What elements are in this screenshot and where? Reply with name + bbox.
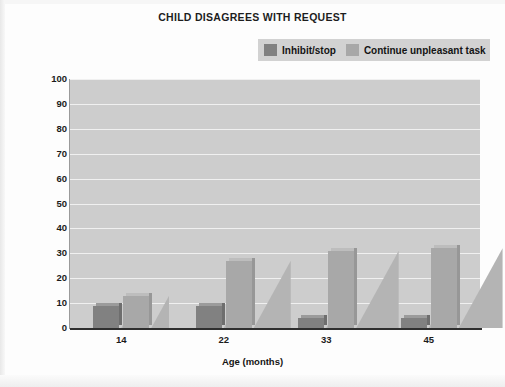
bar-body [123,296,149,328]
bar-face [93,306,119,328]
bar-side-face [324,315,327,325]
legend-swatch-inhibit-stop [264,44,277,56]
y-axis-line [69,79,70,329]
bar-face [196,306,222,328]
bar-shadow [151,296,169,328]
plot-area [70,79,480,328]
y-axis-tick-label: 0 [37,322,67,333]
legend-swatch-continue-unpleasant-task [346,44,359,56]
bar-face [226,261,252,328]
bar-body [298,318,324,328]
bar-side-face [457,245,460,325]
y-axis-tick-label: 50 [37,198,67,209]
bar-side-face [354,248,357,325]
bar-shadow [459,248,503,328]
bar-face [328,251,354,328]
bar-body [431,248,457,328]
chart-page: CHILD DISAGREES WITH REQUEST Inhibit/sto… [0,0,505,387]
legend-label-inhibit-stop: Inhibit/stop [282,45,336,56]
bar-face [431,248,457,328]
y-axis-tick-label: 80 [37,123,67,134]
bar-side-face [252,258,255,325]
chart-title: CHILD DISAGREES WITH REQUEST [0,11,505,23]
y-axis-tick-label: 100 [37,73,67,84]
bar-side-face [119,303,122,325]
bar-body [328,251,354,328]
bar-body [93,306,119,328]
x-axis-title: Age (months) [0,356,505,367]
bar-body [196,306,222,328]
legend-item-continue-unpleasant-task: Continue unpleasant task [346,44,486,56]
legend-item-inhibit-stop: Inhibit/stop [264,44,336,56]
bar-face [401,318,427,328]
x-axis-tick-label: 14 [91,334,151,345]
y-axis-tick-label: 30 [37,247,67,258]
bar-face [298,318,324,328]
page-edge-bottom [0,375,505,387]
y-axis-tick-label: 10 [37,297,67,308]
bar-face [123,296,149,328]
y-axis-tick-label: 90 [37,98,67,109]
chart-legend: Inhibit/stop Continue unpleasant task [258,39,490,61]
x-axis-line [70,328,482,330]
y-axis-tick-label: 20 [37,272,67,283]
legend-label-continue-unpleasant-task: Continue unpleasant task [364,45,486,56]
bar-group [378,79,481,328]
x-axis-tick-label: 33 [296,334,356,345]
y-axis-tick-label: 40 [37,222,67,233]
bar-group [275,79,378,328]
bar-side-face [222,303,225,325]
bar-group [173,79,276,328]
x-axis-tick-label: 22 [194,334,254,345]
y-axis-tick-label: 60 [37,173,67,184]
bar-side-face [427,315,430,325]
y-axis-tick-label: 70 [37,148,67,159]
page-edge-top [0,0,505,4]
bar-group [70,79,173,328]
bar-body [401,318,427,328]
x-axis-tick-label: 45 [399,334,459,345]
page-edge-left [0,0,5,387]
bar-side-face [149,293,152,325]
bar-body [226,261,252,328]
